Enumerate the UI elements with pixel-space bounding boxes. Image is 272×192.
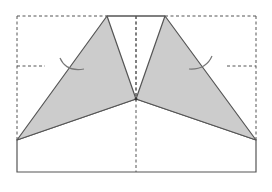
origami-diagram bbox=[0, 0, 272, 192]
center-point bbox=[135, 98, 138, 101]
